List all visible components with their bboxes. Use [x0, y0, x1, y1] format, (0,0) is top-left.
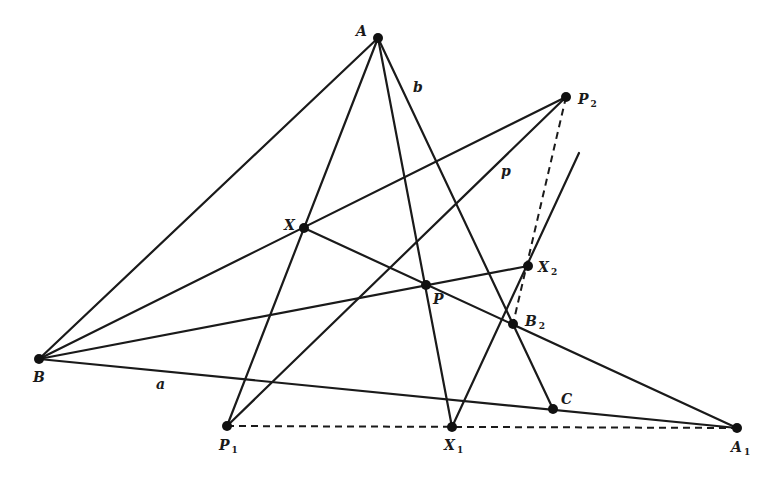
line-labels: abp [156, 79, 511, 392]
point-x1 [447, 422, 457, 432]
segment-x-a1 [304, 228, 737, 428]
label-c: C [561, 391, 572, 407]
point-a1 [732, 423, 742, 433]
label-x1: X1 [443, 437, 463, 455]
segment-a-x1 [378, 38, 452, 427]
point-labels: AP2XPX2B2BCP1X1A1 [32, 23, 750, 457]
segment-a-b [39, 38, 378, 359]
label-a: A [354, 23, 367, 39]
label-line-b: b [413, 79, 423, 95]
point-x [299, 223, 309, 233]
point-p1 [222, 421, 232, 431]
point-p [421, 280, 431, 290]
label-p: P [432, 291, 444, 307]
label-x: X [283, 217, 296, 233]
label-b2: B2 [524, 313, 545, 331]
segment-x1-ext [452, 153, 579, 427]
point-b2 [508, 319, 518, 329]
segment-p2-p1 [227, 97, 566, 426]
point-a [373, 33, 383, 43]
geometry-diagram: AP2XPX2B2BCP1X1A1 abp [0, 0, 766, 478]
segment-a-c [378, 38, 553, 409]
point-b [34, 354, 44, 364]
point-c [548, 404, 558, 414]
point-x2 [523, 261, 533, 271]
dashed-segment-p1-a1 [227, 426, 737, 428]
label-line-a: a [156, 376, 165, 392]
label-p2: P2 [577, 91, 597, 109]
label-a1: A1 [729, 439, 750, 457]
segment-b-a1 [39, 359, 737, 428]
point-p2 [561, 92, 571, 102]
dashed-lines [227, 97, 737, 428]
solid-lines [39, 38, 737, 428]
label-p1: P1 [218, 437, 238, 455]
label-line-p: p [501, 163, 511, 179]
label-b: B [32, 369, 45, 385]
label-x2: X2 [537, 259, 557, 277]
dashed-segment-p2-b2 [513, 97, 566, 324]
